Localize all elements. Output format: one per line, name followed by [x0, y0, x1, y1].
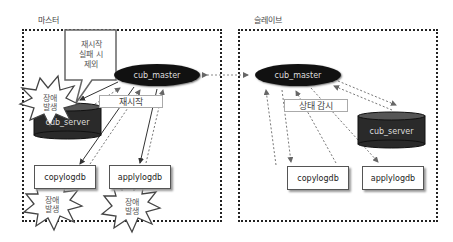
- callout-line-1: 재시작: [81, 40, 102, 50]
- status-monitor-label: 상태 감시: [284, 99, 348, 112]
- master-cub-server-label: cub_server: [34, 118, 101, 127]
- failure-label-line1: 장애: [45, 196, 59, 205]
- slave-cub-master-node: cub_master: [255, 64, 341, 86]
- failure-label-applylogdb: 장애 발생: [114, 196, 150, 218]
- master-cub-master-node: cub_master: [114, 64, 200, 86]
- slave-cub-server-label: cub_server: [358, 127, 425, 136]
- callout-line-2: 실패 시: [79, 50, 103, 60]
- restart-label: 재시작: [99, 95, 163, 108]
- slave-applylogdb-node: applylogdb: [362, 166, 424, 190]
- callout-line-3: 제외: [84, 60, 98, 70]
- master-copylogdb-node: copylogdb: [34, 165, 96, 189]
- failure-label-line2: 발생: [45, 205, 59, 214]
- failure-label-line1: 장애: [43, 94, 57, 103]
- restart-fail-callout: 재시작 실패 시 제외: [66, 32, 116, 78]
- failure-label-line1: 장애: [125, 198, 139, 207]
- failure-label-server: 장애 발생: [32, 92, 68, 114]
- master-applylogdb-node: applylogdb: [109, 165, 171, 189]
- failure-label-copylogdb: 장애 발생: [34, 194, 70, 216]
- slave-copylogdb-node: copylogdb: [287, 166, 349, 190]
- failure-label-line2: 발생: [125, 207, 139, 216]
- failure-label-line2: 발생: [43, 103, 57, 112]
